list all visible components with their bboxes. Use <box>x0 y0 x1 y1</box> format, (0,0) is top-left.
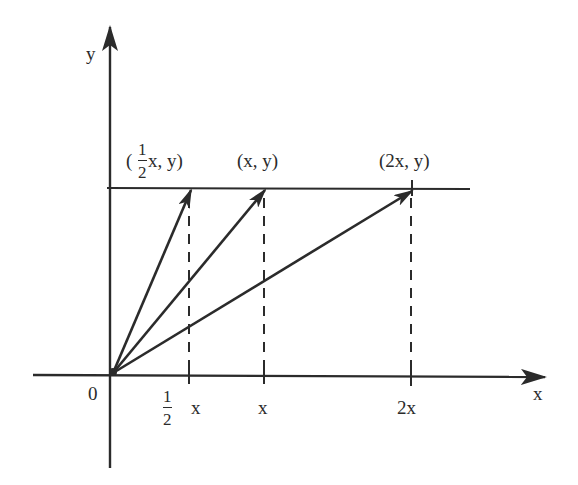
tick-label-x: x <box>258 398 268 417</box>
y-axis-label: y <box>86 44 96 63</box>
point-label-half-x-rest: x, y) <box>148 151 183 170</box>
point-label-x: (x, y) <box>237 151 278 170</box>
point-label-2x: (2x, y) <box>379 151 430 170</box>
fraction-bar <box>138 160 147 161</box>
tick-label-half-x: x <box>191 398 201 417</box>
vector-2x <box>113 191 412 373</box>
tick-label-half-fraction: 1 2 <box>163 388 172 428</box>
vector-half-x <box>113 190 191 373</box>
fraction-numerator: 1 <box>163 388 172 405</box>
point-label-half-x-open: ( <box>126 151 132 170</box>
fraction-bar <box>163 407 172 408</box>
fraction-denominator: 2 <box>138 164 147 181</box>
origin-point <box>109 368 117 376</box>
origin-label: 0 <box>88 384 98 403</box>
tick-label-2x: 2x <box>397 398 416 417</box>
horizontal-line-y <box>107 188 470 189</box>
vector-diagram <box>0 0 578 485</box>
x-axis-label: x <box>533 384 543 403</box>
fraction-numerator: 1 <box>138 141 147 158</box>
fraction-denominator: 2 <box>163 411 172 428</box>
point-label-half-x-fraction: 1 2 <box>138 141 147 181</box>
